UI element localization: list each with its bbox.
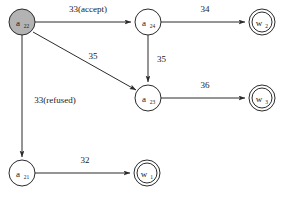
node-a24[interactable]: a 24 [135, 9, 161, 35]
edge-a24-to-a23: 35 [148, 35, 167, 82]
node-w2[interactable]: w 2 [249, 9, 275, 35]
edge-label-35-vertical: 35 [157, 54, 167, 64]
edge-label-32: 32 [81, 155, 90, 165]
node-a21-subscript: 21 [24, 174, 30, 180]
node-w2-subscript: 2 [265, 23, 268, 29]
edge-a22-to-a24: 33(accept) [35, 4, 131, 22]
edge-label-36: 36 [201, 80, 211, 90]
node-a22-subscript: 22 [24, 23, 30, 29]
node-a23-subscript: 23 [150, 99, 156, 105]
edge-a23-to-w3: 36 [161, 80, 245, 98]
edge-a22-to-a23: 35 [33, 32, 136, 90]
edge-label-33-accept: 33(accept) [69, 4, 107, 14]
edge-a24-to-w2: 34 [161, 4, 245, 22]
node-w3-label: w [256, 94, 263, 104]
node-circle[interactable] [135, 85, 161, 111]
node-a24-label: a [142, 18, 146, 28]
diagram-canvas: 33(accept) 35 33(refused) 34 35 36 [0, 0, 290, 204]
node-w1-label: w [141, 169, 148, 179]
edge-a21-to-w1: 32 [35, 155, 130, 173]
node-a23-label: a [142, 94, 146, 104]
node-a24-subscript: 24 [150, 23, 156, 29]
node-w1-subscript: 1 [150, 174, 153, 180]
state-transition-diagram: 33(accept) 35 33(refused) 34 35 36 [0, 0, 290, 204]
node-a22-label: a [16, 18, 20, 28]
node-a22[interactable]: a 22 [9, 9, 35, 35]
node-circle[interactable] [9, 9, 35, 35]
edge-label-33-refused: 33(refused) [34, 95, 75, 105]
node-w3[interactable]: w 3 [249, 85, 275, 111]
node-a21-label: a [16, 169, 20, 179]
edge-label-34: 34 [201, 4, 211, 14]
node-a21[interactable]: a 21 [9, 160, 35, 186]
node-a23[interactable]: a 23 [135, 85, 161, 111]
edge-label-35-diagonal: 35 [89, 51, 99, 61]
edge-line [33, 32, 136, 90]
node-w1[interactable]: w 1 [134, 160, 160, 186]
node-circle[interactable] [135, 9, 161, 35]
node-w2-label: w [256, 18, 263, 28]
edge-a22-to-a21: 33(refused) [22, 35, 76, 157]
node-w3-subscript: 3 [265, 99, 268, 105]
node-circle[interactable] [9, 160, 35, 186]
